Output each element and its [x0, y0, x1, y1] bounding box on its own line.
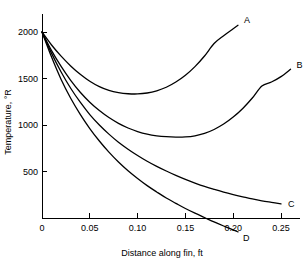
- x-axis-title: Distance along fin, ft: [121, 248, 203, 258]
- y-axis-title: Temperature, °R: [3, 89, 13, 155]
- y-tick-label: 1500: [18, 74, 38, 84]
- curve-labels: ABCD: [243, 15, 303, 243]
- x-tick-label: 0.15: [177, 223, 195, 233]
- x-tick-label: 0.10: [129, 223, 147, 233]
- curve-c: [42, 32, 281, 204]
- curve-label-a: A: [244, 15, 250, 25]
- curve-label-b: B: [297, 60, 303, 70]
- chart-svg: 50010001500200000.050.100.150.200.25 ABC…: [0, 0, 307, 261]
- tick-labels: 50010001500200000.050.100.150.200.25: [18, 27, 290, 233]
- curve-label-d: D: [243, 233, 250, 243]
- curve-label-c: C: [288, 199, 295, 209]
- curve-a: [42, 25, 238, 94]
- y-tick-label: 2000: [18, 27, 38, 37]
- data-curves: [42, 25, 291, 232]
- x-tick-label: 0: [39, 223, 44, 233]
- y-tick-label: 500: [23, 167, 38, 177]
- tick-marks: [42, 32, 281, 218]
- curve-b: [42, 32, 291, 137]
- x-tick-label: 0.05: [81, 223, 99, 233]
- chart-figure: 50010001500200000.050.100.150.200.25 ABC…: [0, 0, 307, 261]
- x-tick-label: 0.25: [272, 223, 290, 233]
- y-tick-label: 1000: [18, 120, 38, 130]
